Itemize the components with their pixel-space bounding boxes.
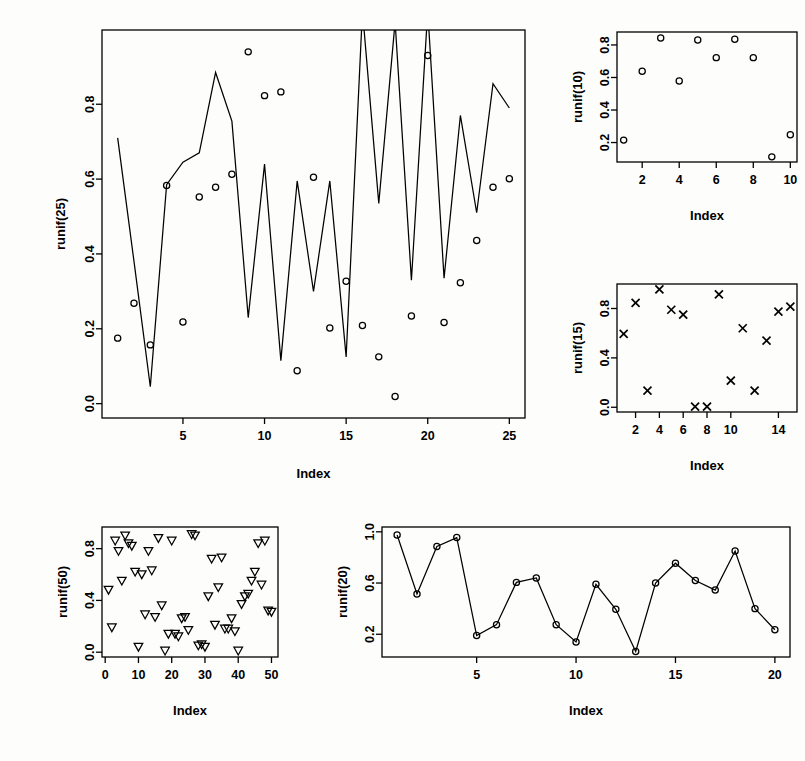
data-point-triangle — [207, 555, 216, 563]
y-tick-label-runif15: 0.8 — [598, 300, 612, 317]
x-tick-label-runif25: 5 — [179, 429, 186, 443]
data-point-circle — [147, 342, 153, 348]
data-point-triangle — [121, 532, 130, 540]
chart-runif20: 51015200.20.61.0Indexrunif(20) — [310, 515, 805, 755]
x-tick-label-runif50: 10 — [131, 668, 145, 682]
y-tick-label-runif50: 0.0 — [83, 643, 97, 660]
data-point-circle — [310, 174, 316, 180]
data-point-circle — [294, 368, 300, 374]
panel-runif10: 2468100.20.40.60.8Indexrunif(10) — [545, 20, 805, 270]
x-axis-label-runif15: Index — [690, 458, 725, 473]
data-point-triangle — [137, 571, 146, 579]
data-point-triangle — [104, 586, 113, 594]
x-tick-label-runif15: 4 — [656, 423, 663, 437]
y-tick-label-runif20: 1.0 — [363, 523, 377, 540]
data-point-circle — [278, 89, 284, 95]
x-tick-label-runif15: 2 — [632, 423, 639, 437]
data-point-triangle — [134, 643, 143, 651]
data-point-circle — [359, 322, 365, 328]
plot-box-runif20 — [382, 527, 790, 657]
data-point-circle — [457, 280, 463, 286]
x-tick-label-runif10: 8 — [750, 173, 757, 187]
data-point-circle — [695, 37, 701, 43]
y-tick-label-runif25: 0.8 — [83, 96, 97, 113]
panel-runif15: 246810140.00.40.8Indexrunif(15) — [545, 270, 805, 485]
data-point-circle — [490, 184, 496, 190]
plot-content-runif15 — [620, 285, 795, 410]
data-point-triangle — [114, 548, 123, 556]
x-tick-label-runif50: 30 — [198, 668, 212, 682]
data-point-triangle — [184, 627, 193, 635]
x-tick-label-runif10: 10 — [783, 173, 797, 187]
y-tick-label-runif15: 0.4 — [598, 349, 612, 366]
data-point-triangle — [247, 577, 256, 585]
data-point-circle — [506, 176, 512, 182]
data-point-triangle — [214, 584, 223, 592]
x-axis-label-runif20: Index — [569, 703, 604, 718]
x-tick-label-runif25: 25 — [502, 429, 516, 443]
data-point-circle — [229, 171, 235, 177]
x-tick-label-runif10: 2 — [639, 173, 646, 187]
data-point-circle — [658, 35, 664, 41]
data-point-circle — [621, 137, 627, 143]
x-tick-label-runif10: 4 — [676, 173, 683, 187]
data-point-triangle — [157, 602, 166, 610]
series-line-runif20 — [397, 535, 775, 652]
data-point-triangle — [234, 647, 243, 655]
data-point-triangle — [154, 535, 163, 543]
plot-box-runif15 — [617, 284, 797, 412]
data-point-triangle — [227, 615, 236, 623]
y-tick-label-runif20: 0.2 — [363, 626, 377, 643]
x-tick-label-runif50: 40 — [231, 668, 245, 682]
y-tick-label-runif50: 0.4 — [83, 592, 97, 609]
plot-page: 5101520250.00.20.40.60.8Indexrunif(25) 2… — [0, 0, 805, 761]
data-point-circle — [180, 319, 186, 325]
y-axis-label-runif50: runif(50) — [55, 566, 70, 618]
x-tick-label-runif50: 50 — [265, 668, 279, 682]
y-axis-label-runif20: runif(20) — [335, 566, 350, 618]
data-point-circle — [327, 325, 333, 331]
y-tick-label-runif25: 0.4 — [83, 245, 97, 262]
data-point-triangle — [144, 548, 153, 556]
data-point-circle — [394, 532, 400, 538]
data-point-circle — [787, 132, 793, 138]
x-tick-label-runif25: 20 — [421, 429, 435, 443]
data-point-triangle — [251, 568, 260, 576]
data-point-circle — [261, 93, 267, 99]
data-point-circle — [343, 278, 349, 284]
y-tick-label-runif15: 0.0 — [598, 399, 612, 416]
data-point-triangle — [161, 647, 170, 655]
plot-content-runif10 — [621, 35, 794, 160]
data-point-triangle — [204, 593, 213, 601]
x-tick-label-runif15: 14 — [771, 423, 785, 437]
plot-box-runif10 — [617, 32, 797, 162]
panel-runif50: 010203040500.00.40.8Indexrunif(50) — [30, 515, 310, 755]
data-point-circle — [769, 154, 775, 160]
x-tick-label-runif20: 10 — [569, 668, 583, 682]
data-point-circle — [441, 319, 447, 325]
data-point-triangle — [231, 628, 240, 636]
x-tick-label-runif20: 5 — [473, 668, 480, 682]
x-axis-label-runif50: Index — [173, 703, 208, 718]
data-point-triangle — [141, 611, 150, 619]
chart-runif25: 5101520250.00.20.40.60.8Indexrunif(25) — [30, 20, 530, 480]
y-axis-label-runif25: runif(25) — [53, 198, 68, 250]
data-point-circle — [196, 194, 202, 200]
plot-content-runif50 — [104, 531, 276, 655]
y-tick-label-runif25: 0.6 — [83, 170, 97, 187]
x-tick-label-runif25: 15 — [339, 429, 353, 443]
x-tick-label-runif20: 20 — [768, 668, 782, 682]
x-tick-label-runif10: 6 — [713, 173, 720, 187]
panel-runif25: 5101520250.00.20.40.60.8Indexrunif(25) — [30, 20, 530, 480]
data-point-circle — [732, 36, 738, 42]
data-point-triangle — [254, 540, 263, 548]
y-tick-label-runif10: 0.8 — [598, 36, 612, 53]
chart-runif15: 246810140.00.40.8Indexrunif(15) — [545, 270, 805, 485]
data-point-triangle — [217, 554, 226, 562]
data-point-circle — [376, 354, 382, 360]
data-point-circle — [212, 184, 218, 190]
data-point-circle — [713, 55, 719, 61]
data-point-circle — [392, 393, 398, 399]
y-tick-label-runif25: 0.0 — [83, 395, 97, 412]
data-point-circle — [115, 335, 121, 341]
